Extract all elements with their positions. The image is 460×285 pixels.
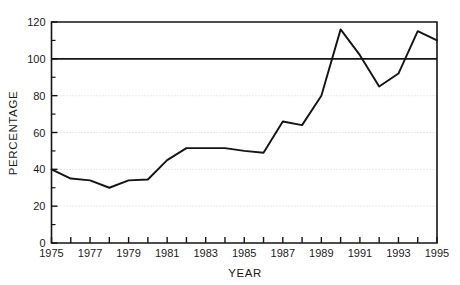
x-axis-tick-label: 1987	[271, 247, 295, 259]
y-axis-tick-label: 120	[27, 16, 45, 28]
x-axis-tick-label: 1975	[39, 247, 63, 259]
y-axis-title: PERCENTAGE	[7, 91, 19, 175]
x-axis-tick-label: 1995	[425, 247, 449, 259]
x-axis-tick-label: 1989	[309, 247, 333, 259]
x-axis-tick-label: 1979	[116, 247, 140, 259]
line-chart: 020406080100120 197519771979198119831985…	[0, 0, 460, 285]
x-axis-tick-label: 1991	[348, 247, 372, 259]
x-axis-title: YEAR	[228, 267, 262, 279]
x-axis-tick-label: 1985	[232, 247, 256, 259]
y-axis-tick-labels-group: 020406080100120	[27, 16, 45, 249]
y-axis-tick-label: 20	[33, 200, 45, 212]
y-axis-tick-label: 60	[33, 127, 45, 139]
y-axis-tick-label: 100	[27, 53, 45, 65]
x-axis-tick-label: 1981	[155, 247, 179, 259]
y-axis-tick-label: 40	[33, 163, 45, 175]
x-axis-tick-labels-group: 1975197719791981198319851987198919911993…	[39, 247, 449, 259]
data-series-line	[52, 29, 438, 187]
x-axis-tick-label: 1983	[193, 247, 217, 259]
y-axis-tick-label: 80	[33, 90, 45, 102]
x-axis-tick-label: 1977	[78, 247, 102, 259]
x-axis-ticks-group	[52, 237, 438, 243]
x-axis-tick-label: 1993	[386, 247, 410, 259]
chart-container: 020406080100120 197519771979198119831985…	[0, 0, 460, 285]
y-axis-ticks-group	[52, 22, 58, 243]
clipped-title-artifact	[70, 0, 390, 5]
